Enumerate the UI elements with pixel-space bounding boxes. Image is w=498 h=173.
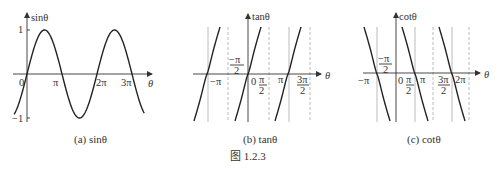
cot-curve [364,27,465,121]
sin-label-2pi: 2π [96,77,107,88]
tan-y-label: tanθ [252,11,270,22]
cot-label-2pi: 2π [455,74,466,85]
sin-y-label: sinθ [31,12,48,23]
cot-label-3half-pi-den: 2 [441,85,446,96]
sin-x-label: θ [148,78,153,89]
cot-y-label: cotθ [399,11,417,22]
sin-label-3pi: 3π [121,77,132,88]
tan-label-3half-pi-den: 2 [300,85,305,96]
tan-panel: tanθ −π −π 2 0 π 2 π 3π 2 θ (b) tanθ [193,11,330,146]
tan-label-neg-half-pi-den: 2 [234,65,239,76]
cot-caption: (c) cotθ [407,133,441,146]
cot-label-3half-pi-num: 3π [438,74,449,85]
cot-label-neg-pi: −π [358,75,370,86]
cot-label-neg-half-pi-num: −π [378,53,390,64]
tan-label-origin: 0 [251,76,256,87]
tan-x-label: θ [325,70,330,81]
sin-label-neg-one: −1 [12,113,23,124]
tan-label-neg-half-pi-num: −π [229,54,241,65]
cot-label-half-pi-den: 2 [406,85,411,96]
cot-panel: cotθ −π −π 2 0 π 2 π 3π 2 2π θ (c) cotθ [358,11,489,146]
figure-caption: 图 1.2.3 [230,150,266,162]
cot-label-origin: 0 [398,75,403,86]
sin-label-one: 1 [18,24,23,35]
sin-label-pi: π [53,77,59,88]
figure-canvas: sinθ 1 −1 0 π 2π 3π θ (a) sinθ tanθ −π −… [0,0,498,173]
cot-label-half-pi-num: π [406,74,412,85]
cot-label-pi: π [420,74,426,85]
cot-label-neg-half-pi-den: 2 [383,64,388,75]
tan-label-half-pi-num: π [259,74,265,85]
sin-caption: (a) sinθ [74,133,107,146]
tan-label-3half-pi-num: 3π [297,74,308,85]
cot-x-label: θ [484,69,489,80]
tan-caption: (b) tanθ [243,133,277,146]
tan-label-pi: π [278,74,284,85]
sin-panel: sinθ 1 −1 0 π 2π 3π θ (a) sinθ [12,12,153,146]
sin-label-origin: 0 [19,77,24,88]
tan-label-half-pi-den: 2 [259,85,264,96]
tan-label-neg-pi: −π [210,76,222,87]
